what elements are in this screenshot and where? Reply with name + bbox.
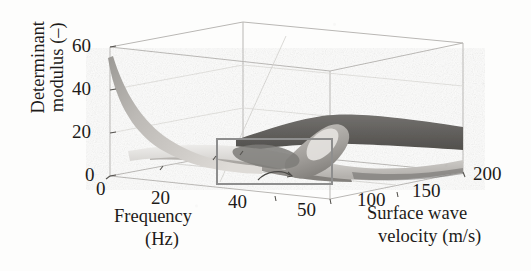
vertical-axis-title-line2: modulus (–)	[48, 0, 67, 167]
velocity-axis-title-line1: Surface wave	[367, 204, 467, 223]
frequency-axis-title-line1: Frequency	[114, 207, 192, 226]
frequency-tick-20: 20	[151, 188, 170, 208]
vertical-axis-title: Determinant modulus (–)	[29, 0, 67, 167]
frequency-tick-50: 50	[297, 200, 316, 220]
velocity-tick-200: 200	[473, 164, 502, 184]
vertical-tick-40: 40	[72, 79, 91, 99]
frequency-axis-title-line2: (Hz)	[145, 230, 179, 249]
surface-mesh	[108, 56, 463, 182]
vertical-axis-title-line1: Determinant	[29, 0, 48, 167]
figure-container: Determinant modulus (–) 60 40 20 0 0 20 …	[0, 0, 531, 271]
velocity-tick-150: 150	[412, 181, 441, 201]
frequency-tick-0: 0	[96, 179, 106, 199]
frequency-tick-40: 40	[228, 192, 247, 212]
velocity-axis-title-line2: velocity (m/s)	[378, 227, 481, 246]
vertical-tick-60: 60	[72, 36, 91, 56]
vertical-tick-20: 20	[72, 122, 91, 142]
vertical-tick-0: 0	[85, 165, 95, 185]
